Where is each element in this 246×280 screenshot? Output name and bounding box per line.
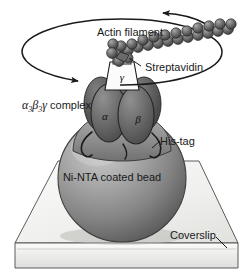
figure-canvas: α β γ — [0, 0, 246, 280]
coverslip-front-face — [15, 243, 238, 268]
subunit-alpha-label: α — [102, 110, 108, 122]
complex-label-beta: β — [31, 98, 38, 112]
complex-label: α3β3γcomplex — [22, 98, 91, 114]
actin-filament-label: Actin filament — [97, 26, 163, 38]
complex-label-gamma: γ — [42, 98, 47, 112]
rotation-assay-figure: α β γ — [0, 0, 246, 280]
complex-label-word: complex — [50, 99, 91, 111]
coverslip-label: Coverslip — [170, 229, 216, 241]
rotation-ellipse-arc-lower-left — [22, 52, 78, 81]
subunit-beta-label: β — [134, 113, 141, 125]
ni-nta-bead-label: Ni-NTA coated bead — [63, 171, 161, 183]
his-tag-label: His-tag — [160, 135, 195, 147]
streptavidin-label: Streptavidin — [145, 61, 203, 73]
gamma-subunit-label: γ — [120, 71, 125, 83]
